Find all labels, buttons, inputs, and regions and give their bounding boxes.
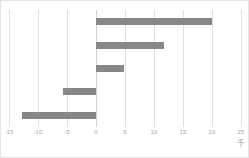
gridline-5	[125, 10, 126, 127]
tick-label: -15	[5, 128, 14, 137]
tick-label: -10	[34, 128, 43, 137]
tick-label: 0	[94, 128, 97, 137]
bar	[63, 88, 96, 95]
plot-area	[9, 10, 241, 127]
tick-label: 15	[180, 128, 187, 137]
bar	[96, 18, 212, 25]
tick-label: 5	[123, 128, 126, 137]
gridline--10	[38, 10, 39, 127]
gridline-10	[154, 10, 155, 127]
tick-label: 20	[209, 128, 216, 137]
bar	[96, 42, 164, 49]
bar-chart: -15-10-50510152025 千	[0, 0, 249, 158]
gridline-20	[212, 10, 213, 127]
axis-unit-label: 千	[237, 139, 245, 149]
gridline--5	[67, 10, 68, 127]
gridline-15	[183, 10, 184, 127]
gridline-25	[241, 10, 242, 127]
tick-label: 10	[151, 128, 158, 137]
bar	[96, 65, 124, 72]
x-axis-tick-labels: -15-10-50510152025	[9, 128, 241, 140]
tick-label: -5	[64, 128, 70, 137]
bar	[22, 112, 96, 119]
tick-label: 25	[238, 128, 245, 137]
gridline--15	[9, 10, 10, 127]
